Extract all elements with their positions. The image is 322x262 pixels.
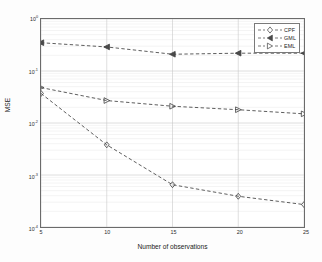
legend-item: EML — [257, 42, 296, 50]
x-tick-label: 15 — [171, 230, 177, 235]
x-axis-label: Number of observations — [40, 243, 305, 250]
figure: 10010-110-210-310-4 510152025 CPF GML — [0, 0, 322, 262]
triangle-left-icon — [257, 34, 283, 42]
x-tick-label: 10 — [104, 230, 110, 235]
y-tick-label: 10-3 — [29, 174, 38, 180]
plot-area: 10010-110-210-310-4 510152025 CPF GML — [40, 18, 305, 228]
legend-label: GML — [284, 35, 296, 41]
y-tick-label: 10-1 — [29, 69, 38, 75]
diamond-icon — [257, 26, 283, 34]
series-eml — [41, 85, 304, 117]
x-tick-label: 5 — [40, 230, 43, 235]
x-tick-label: 20 — [237, 230, 243, 235]
x-tick-label: 25 — [303, 230, 309, 235]
y-tick-label: 10-4 — [29, 226, 38, 232]
legend-label: EML — [284, 43, 295, 49]
triangle-right-icon — [257, 42, 283, 50]
y-tick-label: 10-2 — [29, 121, 38, 127]
legend-label: CPF — [284, 27, 295, 33]
y-tick-label: 100 — [30, 16, 38, 22]
legend-item: CPF — [257, 26, 296, 34]
legend-item: GML — [257, 34, 296, 42]
y-axis-label: MSE — [4, 98, 11, 112]
legend: CPF GML EML — [254, 23, 300, 53]
